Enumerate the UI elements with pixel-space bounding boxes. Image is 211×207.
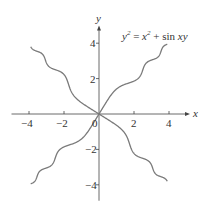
y-tick-label: −2 xyxy=(85,144,97,155)
x-axis-label: x xyxy=(193,108,198,119)
x-tick-label: 2 xyxy=(131,118,137,129)
y-tick-label: −4 xyxy=(85,180,97,191)
y-axis-arrow-icon xyxy=(97,26,101,31)
y-tick-label: 4 xyxy=(90,38,96,49)
y-axis-label: y xyxy=(96,13,101,24)
curve-upper-right xyxy=(99,44,167,114)
y-tick-label: 2 xyxy=(90,74,96,85)
x-axis-arrow-icon xyxy=(185,112,190,116)
equation-label: y2 = x2 + sin xy xyxy=(122,30,188,42)
x-tick-label: −2 xyxy=(56,118,68,129)
origin-label: 0 xyxy=(92,118,98,129)
x-tick-label: 4 xyxy=(166,118,172,129)
curve-upper-left xyxy=(31,47,99,114)
x-tick-label: −4 xyxy=(21,118,33,129)
